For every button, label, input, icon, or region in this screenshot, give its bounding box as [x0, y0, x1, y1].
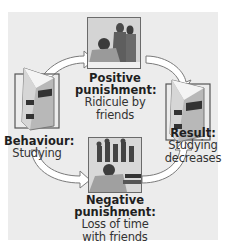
negative-desc-line1: Loss of time — [68, 218, 162, 231]
photo-studying-alone — [88, 137, 142, 193]
result-desc-line1: Studying — [160, 139, 226, 152]
result-node: Result: Studying decreases — [160, 127, 226, 164]
positive-desc-line2: friends — [75, 109, 155, 122]
negative-punishment-node: Negative punishment: Loss of time with f… — [68, 194, 162, 243]
result-desc-line2: decreases — [160, 152, 226, 165]
positive-desc-line1: Ridicule by — [75, 96, 155, 109]
behaviour-node: Behaviour: Studying — [4, 135, 70, 160]
book-icon — [14, 64, 62, 132]
photo-ridicule — [87, 17, 141, 69]
negative-desc-line2: with friends — [68, 231, 162, 244]
behaviour-desc: Studying — [4, 147, 70, 160]
positive-punishment-node: Positive punishment: Ridicule by friends — [75, 72, 155, 121]
